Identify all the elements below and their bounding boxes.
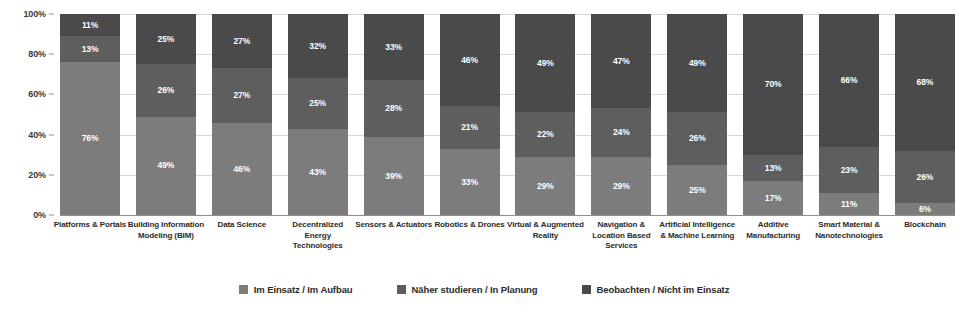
- bar-segment-bottom[interactable]: 33%: [440, 149, 500, 215]
- bar-segment-bottom[interactable]: 6%: [895, 203, 955, 215]
- bar-segment-bottom[interactable]: 76%: [60, 62, 120, 215]
- bar-column[interactable]: 47%24%29%: [591, 14, 651, 215]
- bar-segment-top[interactable]: 33%: [364, 14, 424, 80]
- bar-segment-bottom[interactable]: 29%: [591, 157, 651, 215]
- bar-segment-value-label: 27%: [233, 37, 250, 46]
- x-axis-category-label: Artificial Intelligence & Machine Learni…: [658, 220, 736, 270]
- bar-segment-middle[interactable]: 13%: [743, 155, 803, 181]
- x-axis-category-label: Decentralized Energy Technologies: [279, 220, 357, 270]
- x-axis-category-label: Blockchain: [886, 220, 964, 270]
- bar-segment-value-label: 29%: [537, 182, 554, 191]
- y-axis: 0%20%40%60%80%100%: [0, 14, 54, 215]
- bar-column[interactable]: 33%28%39%: [364, 14, 424, 215]
- bar-segment-middle[interactable]: 28%: [364, 80, 424, 136]
- bar-segment-middle[interactable]: 22%: [515, 112, 575, 156]
- legend-swatch-icon: [239, 285, 248, 294]
- bar-segment-value-label: 46%: [461, 56, 478, 65]
- bar-segment-bottom[interactable]: 11%: [819, 193, 879, 215]
- bar-column[interactable]: 70%13%17%: [743, 14, 803, 215]
- bar-segment-top[interactable]: 25%: [136, 14, 196, 64]
- bar-segment-value-label: 22%: [537, 130, 554, 139]
- legend-item[interactable]: Näher studieren / In Planung: [397, 284, 538, 295]
- y-axis-tick-mark: [49, 94, 54, 95]
- bar-segment-bottom[interactable]: 25%: [667, 165, 727, 215]
- bar-segment-top[interactable]: 66%: [819, 14, 879, 147]
- bar-segment-middle[interactable]: 26%: [667, 112, 727, 164]
- bar-segment-top[interactable]: 70%: [743, 14, 803, 155]
- bar-segment-value-label: 76%: [82, 134, 99, 143]
- bar-segment-value-label: 23%: [841, 166, 858, 175]
- bar-segment-middle[interactable]: 27%: [212, 68, 272, 122]
- x-axis-category-label: Navigation & Location Based Services: [582, 220, 660, 270]
- bar-segment-bottom[interactable]: 46%: [212, 123, 272, 215]
- bar-column[interactable]: 46%21%33%: [440, 14, 500, 215]
- bar-column[interactable]: 68%26%6%: [895, 14, 955, 215]
- x-axis-category-label: Building Information Modeling (BIM): [127, 220, 205, 270]
- y-axis-tick-label: 40%: [28, 130, 46, 140]
- bar-group: 11%13%76%25%26%49%27%27%46%32%25%43%33%2…: [60, 14, 955, 215]
- bar-segment-value-label: 49%: [158, 161, 175, 170]
- bar-segment-top[interactable]: 49%: [515, 14, 575, 112]
- y-axis-tick-mark: [49, 54, 54, 55]
- bar-segment-middle[interactable]: 25%: [288, 78, 348, 128]
- bar-column[interactable]: 32%25%43%: [288, 14, 348, 215]
- bar-segment-value-label: 24%: [613, 128, 630, 137]
- bar-segment-value-label: 66%: [841, 76, 858, 85]
- bar-segment-middle[interactable]: 24%: [591, 108, 651, 156]
- bar-segment-bottom[interactable]: 39%: [364, 137, 424, 215]
- x-axis: Platforms & PortalsBuilding Information …: [60, 220, 955, 270]
- bar-segment-middle[interactable]: 26%: [136, 64, 196, 116]
- bar-segment-middle[interactable]: 21%: [440, 106, 500, 148]
- bar-segment-value-label: 29%: [613, 182, 630, 191]
- bar-segment-bottom[interactable]: 49%: [136, 117, 196, 215]
- y-axis-tick-label: 0%: [33, 210, 46, 220]
- y-axis-tick-label: 20%: [28, 170, 46, 180]
- bar-column[interactable]: 27%27%46%: [212, 14, 272, 215]
- bar-column[interactable]: 49%22%29%: [515, 14, 575, 215]
- x-axis-category-label: Sensors & Actuators: [355, 220, 433, 270]
- bar-segment-bottom[interactable]: 43%: [288, 129, 348, 215]
- x-axis-category-label: Smart Material & Nanotechnologies: [810, 220, 888, 270]
- bar-segment-value-label: 26%: [689, 134, 706, 143]
- bar-column[interactable]: 49%26%25%: [667, 14, 727, 215]
- y-axis-tick-mark: [49, 14, 54, 15]
- bar-segment-value-label: 25%: [158, 35, 175, 44]
- bar-segment-bottom[interactable]: 17%: [743, 181, 803, 215]
- bar-segment-top[interactable]: 46%: [440, 14, 500, 106]
- bar-segment-value-label: 26%: [917, 173, 934, 182]
- bar-segment-value-label: 39%: [385, 172, 402, 181]
- bar-segment-value-label: 49%: [537, 59, 554, 68]
- bar-segment-middle[interactable]: 13%: [60, 36, 120, 62]
- bar-column[interactable]: 11%13%76%: [60, 14, 120, 215]
- bar-segment-top[interactable]: 47%: [591, 14, 651, 108]
- bar-segment-value-label: 49%: [689, 59, 706, 68]
- bar-segment-top[interactable]: 32%: [288, 14, 348, 78]
- bar-segment-value-label: 25%: [689, 186, 706, 195]
- bar-segment-middle[interactable]: 23%: [819, 147, 879, 193]
- bar-column[interactable]: 25%26%49%: [136, 14, 196, 215]
- y-axis-tick-label: 100%: [23, 9, 46, 19]
- bar-segment-bottom[interactable]: 29%: [515, 157, 575, 215]
- bar-column[interactable]: 66%23%11%: [819, 14, 879, 215]
- bar-segment-value-label: 13%: [765, 164, 782, 173]
- bar-segment-value-label: 68%: [917, 78, 934, 87]
- bar-segment-value-label: 17%: [765, 194, 782, 203]
- bar-segment-value-label: 28%: [385, 104, 402, 113]
- bar-segment-value-label: 32%: [309, 42, 326, 51]
- x-axis-category-label: Platforms & Portals: [51, 220, 129, 270]
- bar-segment-top[interactable]: 11%: [60, 14, 120, 36]
- bar-segment-top[interactable]: 27%: [212, 14, 272, 68]
- x-axis-category-label: Robotics & Drones: [431, 220, 509, 270]
- legend-item[interactable]: Im Einsatz / Im Aufbau: [239, 284, 353, 295]
- bar-segment-top[interactable]: 68%: [895, 14, 955, 151]
- bar-segment-middle[interactable]: 26%: [895, 151, 955, 203]
- legend-label: Näher studieren / In Planung: [412, 284, 538, 295]
- bar-segment-top[interactable]: 49%: [667, 14, 727, 112]
- legend-swatch-icon: [397, 285, 406, 294]
- chart-legend: Im Einsatz / Im AufbauNäher studieren / …: [0, 284, 968, 295]
- legend-item[interactable]: Beobachten / Nicht im Einsatz: [582, 284, 730, 295]
- bar-segment-value-label: 13%: [82, 45, 99, 54]
- plot-area: 11%13%76%25%26%49%27%27%46%32%25%43%33%2…: [60, 14, 955, 215]
- y-axis-tick-label: 80%: [28, 49, 46, 59]
- bar-segment-value-label: 6%: [919, 205, 931, 214]
